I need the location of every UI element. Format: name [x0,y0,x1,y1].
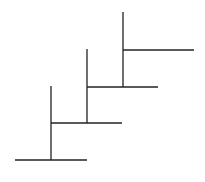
staircase-diagram [0,0,205,182]
diagram-lines [15,12,194,160]
